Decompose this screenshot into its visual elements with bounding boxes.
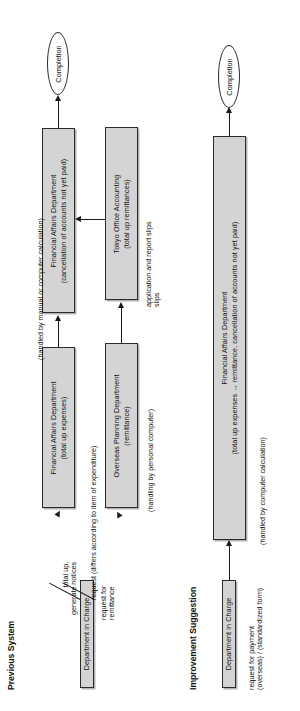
annotation-handled-manual-or-computer: (handled by manual or computer calculati… (37, 218, 45, 360)
arrowhead-previous-completion (55, 95, 61, 101)
improvement-end-completion-label: Completion (225, 58, 234, 95)
box-overseas-planning-department[interactable]: Overseas Planning Department (remittance… (105, 343, 138, 508)
arrowhead-fa-combined-bottom (226, 540, 232, 546)
annotation-request-differs-by-item: request (differs according to item of ex… (90, 446, 98, 600)
box-fa-cancellation-accounts-label: Financial Affairs Department (cancellati… (49, 158, 68, 283)
improvement-start-label: Department in Charge (224, 598, 234, 671)
section-title-previous-system: Previous System (6, 621, 16, 690)
previous-end-completion-label: Completion (54, 45, 63, 82)
annotation-application-and-report-slips: application and report slips slips (145, 221, 162, 307)
box-fa-cancellation-accounts[interactable]: Financial Affairs Department (cancellati… (42, 128, 75, 313)
arrowhead-fa-cancellation-right (75, 216, 81, 222)
box-fa-combined[interactable]: Financial Affairs Department (total up e… (213, 136, 246, 540)
annotation-request-for-payment: request for payment (overseas) / (standa… (248, 588, 265, 690)
arrowhead-overseas-planning (115, 510, 123, 518)
box-fa-total-up-expenses-label: Financial Affairs Department (total up e… (49, 381, 68, 474)
section-title-improvement-suggestion: Improvement Suggestion (188, 587, 198, 690)
connector-tokyo-office-to-fa-cancellation (80, 219, 105, 220)
previous-start-label: Department in Charge (82, 598, 92, 671)
connector-fa-total-up-to-fa-cancellation (58, 320, 59, 347)
arrowhead-tokyo-office-bottom (118, 302, 124, 308)
annotation-handled-by-computer-calculation: (handled by computer calculation) (259, 437, 267, 545)
annotation-handling-personal-computer: (handling by personal computer) (147, 409, 155, 512)
box-overseas-planning-department-label: Overseas Planning Department (remittance… (112, 374, 131, 477)
improvement-end-completion[interactable]: Completion (218, 45, 240, 108)
connector-overseas-planning-to-tokyo-office (121, 307, 122, 343)
improvement-start-department-in-charge[interactable]: Department in Charge (222, 580, 236, 688)
connector-fa-cancellation-to-completion (58, 100, 59, 128)
connector-fa-combined-to-completion (229, 112, 230, 136)
box-tokyo-office-accounting-label: Tokyo Office Accounting (total up remitt… (112, 174, 131, 253)
annotation-request-for-remittance: request for remittance (100, 586, 117, 620)
arrowhead-fa-cancellation-bottom (55, 315, 61, 321)
connector-improvement-start-to-fa-combined (229, 545, 230, 581)
previous-end-completion[interactable]: Completion (47, 32, 69, 95)
box-tokyo-office-accounting[interactable]: Tokyo Office Accounting (total up remitt… (105, 127, 138, 300)
box-fa-total-up-expenses[interactable]: Financial Affairs Department (total up e… (42, 347, 75, 508)
box-fa-combined-label: Financial Affairs Department (total up e… (220, 222, 239, 455)
annotation-total-up-generate-notices: total up, generate notices (62, 562, 79, 615)
arrowhead-fa-total-up (54, 509, 62, 517)
